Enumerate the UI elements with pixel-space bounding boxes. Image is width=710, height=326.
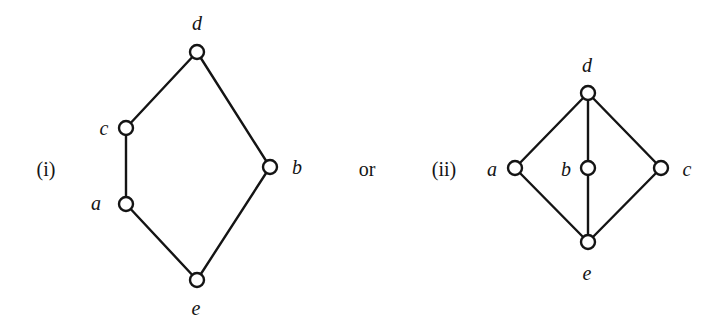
node-ii-b xyxy=(581,161,595,175)
node-ii-e xyxy=(581,235,595,249)
diagram-svg: d c a b e (i) or (ii) d a xyxy=(0,0,710,326)
node-i-a xyxy=(119,197,133,211)
edge-ii-a-e xyxy=(515,168,588,242)
edge-ii-d-a xyxy=(515,93,588,168)
edge-i-d-b xyxy=(197,52,270,167)
caption-ii: (ii) xyxy=(432,158,456,181)
node-i-e xyxy=(190,273,204,287)
label-ii-e: e xyxy=(583,262,592,284)
node-ii-d xyxy=(581,86,595,100)
edge-i-d-c xyxy=(126,52,197,128)
node-ii-a xyxy=(508,161,522,175)
label-i-b: b xyxy=(292,156,302,178)
label-i-c: c xyxy=(100,117,109,139)
diagram-i: d c a b e xyxy=(91,12,302,319)
label-ii-c: c xyxy=(683,158,692,180)
node-ii-c xyxy=(654,161,668,175)
label-ii-a: a xyxy=(487,158,497,180)
label-ii-b: b xyxy=(561,158,571,180)
label-i-d: d xyxy=(192,12,203,34)
diagram-ii: d a b c e xyxy=(487,54,692,284)
edge-ii-d-c xyxy=(588,93,661,168)
label-ii-d: d xyxy=(582,54,593,76)
label-i-a: a xyxy=(91,192,101,214)
label-i-e: e xyxy=(192,297,201,319)
edge-ii-c-e xyxy=(588,168,661,242)
node-i-c xyxy=(119,121,133,135)
edge-i-b-e xyxy=(197,167,270,280)
caption-i: (i) xyxy=(37,158,56,181)
edge-i-a-e xyxy=(126,204,197,280)
caption-or: or xyxy=(359,158,376,180)
node-i-d xyxy=(190,45,204,59)
node-i-b xyxy=(263,160,277,174)
lattice-diagram-figure: d c a b e (i) or (ii) d a xyxy=(0,0,710,326)
